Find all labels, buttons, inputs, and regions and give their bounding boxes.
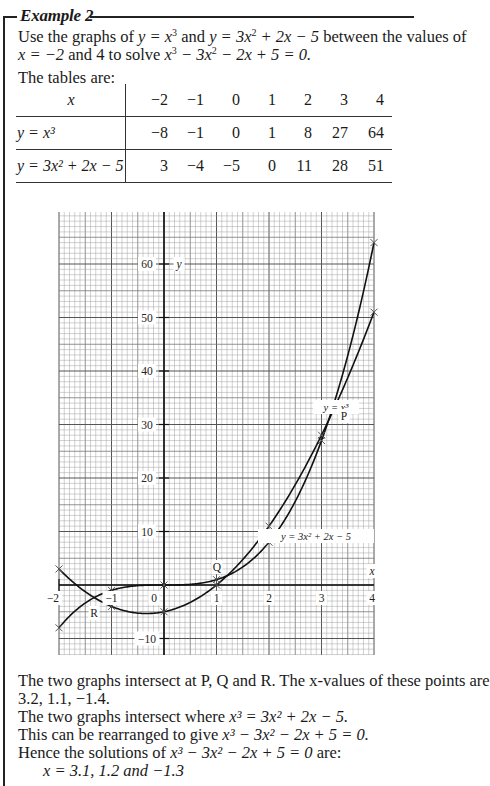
conclusion-line-4: This can be rearranged to give x³ − 3x² … bbox=[18, 726, 369, 744]
example-frame-top-border-right bbox=[90, 16, 414, 18]
intro-line-1: Use the graphs of y = x3 and y = 3x2 + 2… bbox=[18, 28, 467, 46]
x-tick-label: 3 bbox=[319, 592, 325, 604]
example-title: Example 2 bbox=[20, 6, 93, 26]
table-cell: 0 bbox=[240, 150, 276, 183]
conclusion-line-1: The two graphs intersect at P, Q and R. … bbox=[18, 672, 490, 690]
intro-text: and bbox=[177, 27, 209, 46]
intersection-label-r: R bbox=[90, 607, 98, 619]
intro-text: and 4 to solve bbox=[64, 45, 164, 64]
y-tick-label: 30 bbox=[141, 419, 153, 431]
graph-paper-grid bbox=[59, 212, 374, 655]
table-cell: 1 bbox=[240, 117, 276, 150]
table-cell: 28 bbox=[312, 150, 348, 183]
table-cell: 51 bbox=[348, 150, 392, 183]
example-frame-top-border bbox=[3, 16, 17, 18]
x-tick-label: 1 bbox=[214, 592, 220, 604]
intro-text: Use the graphs of bbox=[18, 27, 138, 46]
x-tick-label: 0 bbox=[151, 592, 157, 604]
table-cell: 3 bbox=[126, 150, 169, 183]
y-tick-label: 50 bbox=[141, 312, 153, 324]
target-equation: x bbox=[164, 45, 171, 64]
conclusion-text: This can be rearranged to give bbox=[18, 725, 222, 744]
intro-line-2: x = −2 and 4 to solve x3 − 3x2 − 2x + 5 … bbox=[18, 46, 311, 64]
conclusion-text: The two graphs intersect where bbox=[18, 707, 229, 726]
x-axis-label: x bbox=[368, 565, 375, 577]
rearranged-equation: x³ − 3x² − 2x + 5 = 0. bbox=[222, 725, 369, 744]
intersection-label-p: P bbox=[341, 410, 347, 422]
table-cell: 3 bbox=[312, 84, 348, 117]
table-cell: 64 bbox=[348, 117, 392, 150]
y-axis-label: y bbox=[175, 258, 182, 271]
solution-values: x = 3.1, 1.2 and −1.3 bbox=[43, 762, 184, 780]
y-tick-label: 60 bbox=[141, 258, 153, 270]
table-cell: 2 bbox=[276, 84, 312, 117]
table-cell: 8 bbox=[276, 117, 312, 150]
conclusion-text: are: bbox=[313, 743, 342, 762]
conclusion-line-5: Hence the solutions of x³ − 3x² − 2x + 5… bbox=[18, 744, 341, 762]
x-tick-label: 4 bbox=[369, 592, 375, 604]
y-tick-label: −10 bbox=[138, 633, 156, 645]
table-cell: 11 bbox=[276, 150, 312, 183]
table-cell: −1 bbox=[168, 84, 204, 117]
x-range-start: x = −2 bbox=[18, 45, 64, 64]
target-equation-c: − 2x + 5 = 0. bbox=[217, 45, 311, 64]
table-header-x: x bbox=[16, 84, 126, 117]
table-header-row: x −2 −1 0 1 2 3 4 bbox=[16, 84, 392, 117]
table-cell: −5 bbox=[204, 150, 240, 183]
intro-text: between the values of bbox=[319, 27, 467, 46]
table-cell: 0 bbox=[204, 117, 240, 150]
table-row-label: y = 3x² + 2x − 5 bbox=[16, 150, 126, 183]
x-tick-label: −1 bbox=[105, 592, 117, 604]
intersection-label-q: Q bbox=[213, 561, 222, 573]
intersection-equation: x³ = 3x² + 2x − 5. bbox=[229, 707, 348, 726]
table-cell: 1 bbox=[240, 84, 276, 117]
solved-equation: x³ − 3x² − 2x + 5 = 0 bbox=[170, 743, 312, 762]
table-cell: −8 bbox=[126, 117, 169, 150]
table-cell: −4 bbox=[168, 150, 204, 183]
table-row: y = x³ −8 −1 0 1 8 27 64 bbox=[16, 117, 392, 150]
table-row-label: y = x³ bbox=[16, 117, 126, 150]
conclusion-line-2: 3.2, 1.1, −1.4. bbox=[18, 690, 110, 708]
table-row: y = 3x² + 2x − 5 3 −4 −5 0 11 28 51 bbox=[16, 150, 392, 183]
equation-quadratic: y = 3x bbox=[209, 27, 251, 46]
graph-chart: −10102030405060−2−101234yxy = x³y = 3x² … bbox=[0, 195, 414, 665]
x-tick-label: −2 bbox=[47, 592, 59, 604]
values-table: x −2 −1 0 1 2 3 4 y = x³ −8 −1 0 1 8 27 … bbox=[16, 84, 392, 183]
x-tick-label: 2 bbox=[266, 592, 272, 604]
table-cell: 27 bbox=[312, 117, 348, 150]
table-cell: 4 bbox=[348, 84, 392, 117]
table-cell: 0 bbox=[204, 84, 240, 117]
equation-cubic: y = x bbox=[138, 27, 172, 46]
conclusion-line-3: The two graphs intersect where x³ = 3x² … bbox=[18, 708, 348, 726]
table-cell: −1 bbox=[168, 117, 204, 150]
table-cell: −2 bbox=[126, 84, 169, 117]
y-tick-label: 20 bbox=[141, 472, 153, 484]
y-tick-label: 10 bbox=[141, 526, 153, 538]
target-equation-b: − 3x bbox=[177, 45, 212, 64]
y-tick-label: 40 bbox=[141, 365, 153, 377]
equation-quadratic-rest: + 2x − 5 bbox=[256, 27, 319, 46]
curve-label-quadratic: y = 3x² + 2x − 5 bbox=[280, 531, 351, 542]
conclusion-text: Hence the solutions of bbox=[18, 743, 170, 762]
